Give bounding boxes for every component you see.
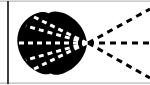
- ray-diagram: [0, 0, 150, 85]
- figure-canvas: [0, 0, 150, 85]
